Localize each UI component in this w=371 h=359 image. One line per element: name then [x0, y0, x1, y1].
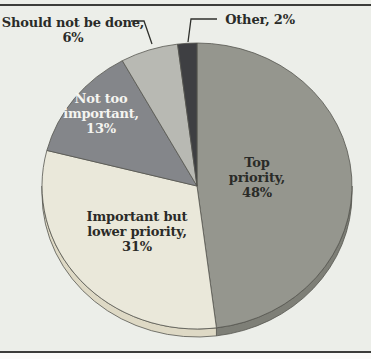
figure-footer — [0, 353, 371, 359]
pie-chart-figure: Top priority, 48%Important but lower pri… — [0, 0, 371, 359]
pie-chart-svg — [0, 0, 371, 359]
top-rule — [0, 4, 371, 6]
bottom-rule — [0, 351, 371, 353]
